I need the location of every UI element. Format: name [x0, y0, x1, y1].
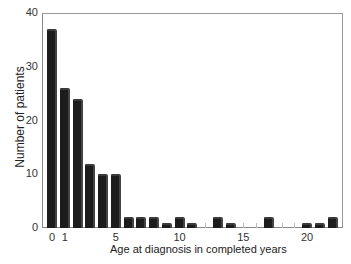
bar	[302, 223, 312, 228]
x-tick-label: 5	[106, 231, 126, 243]
bar	[85, 164, 95, 229]
bar	[175, 217, 185, 228]
y-tick-label: 0	[2, 221, 38, 233]
y-tick-label: 10	[2, 167, 38, 179]
bar	[98, 174, 108, 228]
bar-chart: Number of patients Age at diagnosis in c…	[0, 0, 351, 264]
bar	[73, 99, 83, 228]
x-tick-label: 1	[55, 231, 75, 243]
bar	[315, 223, 325, 228]
bar	[162, 223, 172, 228]
bar	[136, 217, 146, 228]
bar	[226, 223, 236, 228]
y-tick-label: 40	[2, 6, 38, 18]
empty-tick	[256, 223, 257, 228]
bar	[47, 29, 57, 228]
empty-tick	[282, 223, 283, 228]
bar	[328, 217, 338, 228]
y-tick-label: 30	[2, 60, 38, 72]
bar	[124, 217, 134, 228]
x-tick-label: 15	[233, 231, 253, 243]
x-tick-label: 10	[170, 231, 190, 243]
bar	[187, 223, 197, 228]
x-tick-label: 20	[297, 231, 317, 243]
bar	[213, 217, 223, 228]
bar	[60, 88, 70, 228]
empty-tick	[205, 223, 206, 228]
bar	[149, 217, 159, 228]
empty-tick	[243, 223, 244, 228]
x-axis-label: Age at diagnosis in completed years	[110, 243, 287, 255]
bar	[111, 174, 121, 228]
empty-tick	[294, 223, 295, 228]
y-tick-label: 20	[2, 114, 38, 126]
bar	[264, 217, 274, 228]
